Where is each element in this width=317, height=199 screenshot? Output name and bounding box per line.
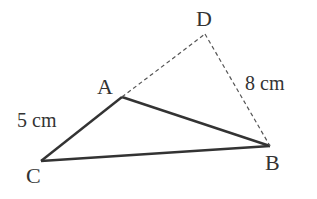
point-label-A: A <box>97 76 113 98</box>
point-label-C: C <box>26 165 41 187</box>
point-label-D: D <box>196 8 212 30</box>
segment-AB <box>122 97 270 146</box>
measurement-CA: 5 cm <box>17 110 56 130</box>
measurement-DB: 8 cm <box>245 73 284 93</box>
point-label-B: B <box>265 152 280 174</box>
segment-AD-dashed <box>122 34 205 97</box>
segment-CB <box>41 146 270 161</box>
triangle-diagram: A B C D 5 cm 8 cm <box>0 0 317 199</box>
